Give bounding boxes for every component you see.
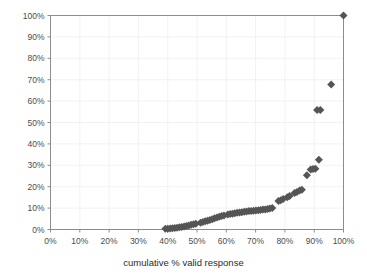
- x-tick-label: 70%: [247, 236, 264, 246]
- x-tick-label: 20%: [101, 236, 118, 246]
- chart-canvas: 0%10%20%30%40%50%60%70%80%90%100% 0%10%2…: [0, 0, 367, 275]
- x-tick-label: 100%: [333, 236, 355, 246]
- data-point-marker: [327, 80, 335, 88]
- x-tick-label: 60%: [218, 236, 235, 246]
- data-point-marker: [315, 156, 323, 164]
- x-tick-label: 0%: [44, 236, 57, 246]
- x-axis-title: cumulative % valid response: [123, 257, 243, 268]
- y-tick-label: 60%: [27, 96, 44, 106]
- y-tick-label: 10%: [27, 203, 44, 213]
- y-tick-label: 30%: [27, 160, 44, 170]
- tick-marks: [48, 16, 344, 233]
- x-axis-tick-labels: 0%10%20%30%40%50%60%70%80%90%100%: [44, 236, 354, 246]
- x-tick-label: 30%: [130, 236, 147, 246]
- x-tick-label: 10%: [71, 236, 88, 246]
- y-tick-label: 100%: [23, 11, 45, 21]
- x-tick-label: 90%: [306, 236, 323, 246]
- y-tick-label: 50%: [27, 118, 44, 128]
- y-tick-label: 70%: [27, 75, 44, 85]
- y-axis-tick-labels: 0%10%20%30%40%50%60%70%80%90%100%: [23, 11, 45, 235]
- x-tick-label: 40%: [159, 236, 176, 246]
- y-tick-label: 80%: [27, 53, 44, 63]
- y-tick-label: 20%: [27, 182, 44, 192]
- y-tick-label: 0%: [32, 225, 45, 235]
- grid-lines: [51, 16, 344, 230]
- y-tick-label: 90%: [27, 32, 44, 42]
- x-tick-label: 80%: [276, 236, 293, 246]
- x-tick-label: 50%: [188, 236, 205, 246]
- y-tick-label: 40%: [27, 139, 44, 149]
- scatter-chart: 0%10%20%30%40%50%60%70%80%90%100% 0%10%2…: [0, 0, 367, 275]
- data-point-marker: [340, 12, 348, 20]
